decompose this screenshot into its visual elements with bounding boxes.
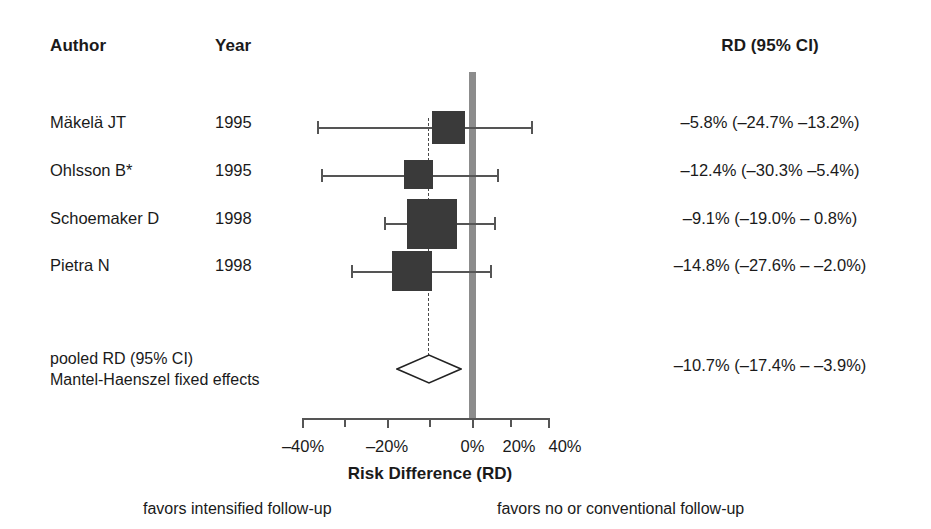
study-author-label: Ohlsson B* <box>50 161 133 180</box>
x-axis-tick-label: –20% <box>352 437 422 456</box>
null-reference-line <box>469 72 476 419</box>
study-author-label: Schoemaker D <box>50 209 159 228</box>
study-year-label: 1995 <box>215 113 252 132</box>
x-axis-tick-minor <box>344 418 346 427</box>
x-axis-tick-major <box>302 418 304 428</box>
study-effect-box <box>404 160 433 189</box>
study-year-label: 1995 <box>215 161 252 180</box>
x-axis-tick-minor <box>510 418 512 427</box>
x-axis-tick-label: –40% <box>268 437 338 456</box>
study-year-label: 1998 <box>215 256 252 275</box>
x-axis-tick-major <box>472 418 474 428</box>
x-axis-line <box>302 418 549 420</box>
x-axis-tick-major <box>548 418 550 428</box>
x-axis-tick-major <box>387 418 389 428</box>
x-axis-tick-minor <box>429 418 431 427</box>
confidence-interval-cap-high <box>490 265 492 278</box>
x-axis-tick-label: 40% <box>530 437 600 456</box>
study-effect-text: –9.1% (–19.0% – 0.8%) <box>645 209 895 228</box>
study-year-label: 1998 <box>215 209 252 228</box>
confidence-interval-cap-low <box>321 169 323 182</box>
footnote-favors-left: favors intensified follow-up <box>143 500 332 518</box>
confidence-interval-cap-high <box>531 121 533 134</box>
study-effect-box <box>432 111 465 144</box>
forest-plot: Author Year RD (95% CI) Mäkelä JT 1995 –… <box>0 0 931 529</box>
study-author-label: Mäkelä JT <box>50 113 126 132</box>
confidence-interval-cap-low <box>351 265 353 278</box>
column-header-effect: RD (95% CI) <box>645 36 895 56</box>
footnote-favors-right: favors no or conventional follow-up <box>497 500 744 518</box>
study-effect-box <box>392 251 432 291</box>
confidence-interval-cap-high <box>497 169 499 182</box>
pooled-effect-diamond <box>396 352 462 386</box>
confidence-interval-cap-high <box>494 217 496 230</box>
study-effect-box <box>407 199 457 249</box>
confidence-interval-line <box>317 127 532 129</box>
study-author-label: Pietra N <box>50 256 110 275</box>
pooled-label-line1: pooled RD (95% CI) <box>50 348 193 369</box>
study-effect-text: –5.8% (–24.7% –13.2%) <box>645 113 895 132</box>
confidence-interval-cap-low <box>317 121 319 134</box>
confidence-interval-cap-low <box>384 217 386 230</box>
pooled-label-line2: Mantel-Haenszel fixed effects <box>50 369 260 390</box>
x-axis-title: Risk Difference (RD) <box>320 464 540 484</box>
study-effect-text: –12.4% (–30.3% –5.4%) <box>645 161 895 180</box>
column-header-author: Author <box>50 36 106 56</box>
pooled-effect-text: –10.7% (–17.4% – –3.9%) <box>645 356 895 375</box>
column-header-year: Year <box>215 36 251 56</box>
study-effect-text: –14.8% (–27.6% – –2.0%) <box>645 256 895 275</box>
